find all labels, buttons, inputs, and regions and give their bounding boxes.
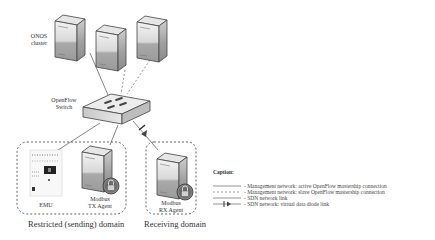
receiving-domain-label: Receiving domain	[144, 219, 206, 229]
caption-item: - SDN network: virtual data diode link	[213, 201, 329, 208]
onos-cluster-label: ONOS cluster	[24, 33, 54, 47]
onos-server-1	[55, 15, 85, 61]
diode-bar-icon	[139, 125, 145, 130]
restricted-domain-label: Restricted (sending) domain	[28, 219, 124, 229]
openflow-switch-label: OpenFlow Switch	[46, 97, 82, 111]
slave-mastership-link-1	[121, 70, 125, 94]
onos-server-3	[137, 16, 167, 62]
slave-mastership-link-2	[127, 60, 150, 94]
modbus-rx-label: Modbus RX Agent	[151, 200, 191, 214]
emu-device	[30, 150, 62, 196]
lock-icon	[177, 184, 193, 200]
emu-label: EMU	[28, 202, 64, 209]
lock-icon	[103, 178, 119, 194]
onos-server-2	[96, 25, 126, 71]
openflow-switch	[83, 94, 150, 124]
modbus-tx-label: Modbus TX Agent	[80, 196, 120, 210]
caption-title: Caption:	[213, 169, 234, 175]
